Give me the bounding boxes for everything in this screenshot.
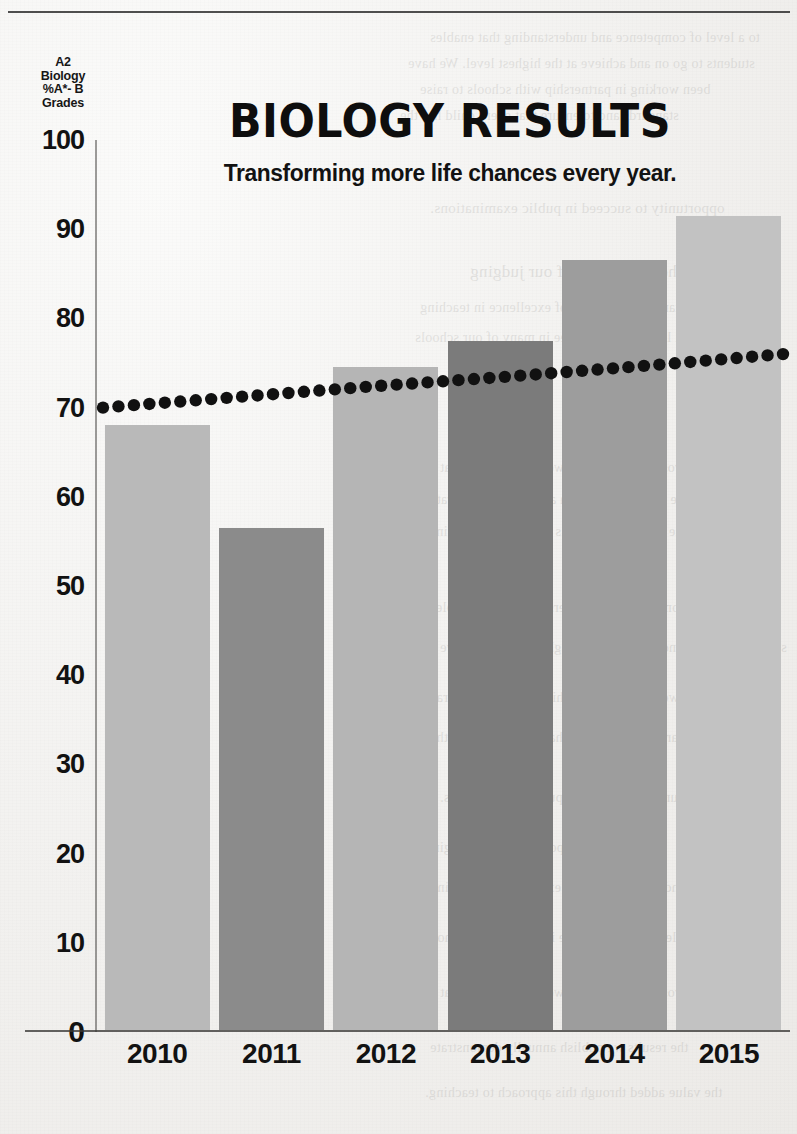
trend-dot xyxy=(746,351,758,363)
y-tick-label-100: 100 xyxy=(22,125,84,156)
top-horizontal-rule xyxy=(8,11,790,13)
y-axis-caption-line-3: %A*- B xyxy=(34,83,92,97)
x-tick-label-2010: 2010 xyxy=(100,1038,214,1070)
trend-dot xyxy=(530,368,542,380)
trend-dot xyxy=(344,382,356,394)
chart-page: to a level of competence and understandi… xyxy=(0,0,797,1134)
trend-line xyxy=(95,140,790,1032)
trend-dot xyxy=(390,378,402,390)
trend-dot xyxy=(143,398,155,410)
trend-dot xyxy=(298,386,310,398)
y-tick-label-30: 30 xyxy=(22,749,84,780)
trend-dot xyxy=(622,361,634,373)
trend-dot xyxy=(190,394,202,406)
trend-dot xyxy=(591,363,603,375)
y-tick-label-60: 60 xyxy=(22,481,84,512)
y-axis-caption-line-1: A2 xyxy=(34,56,92,70)
y-tick-label-20: 20 xyxy=(22,838,84,869)
y-tick-label-70: 70 xyxy=(22,392,84,423)
trend-dot xyxy=(375,380,387,392)
x-tick-label-2011: 2011 xyxy=(214,1038,328,1070)
trend-dot xyxy=(437,375,449,387)
trend-dot xyxy=(267,388,279,400)
x-tick-label-2014: 2014 xyxy=(557,1038,671,1070)
trend-dot xyxy=(251,389,263,401)
x-tick-label-2015: 2015 xyxy=(672,1038,786,1070)
plot-area xyxy=(95,140,790,1032)
trend-dot xyxy=(560,366,572,378)
trend-dot xyxy=(159,397,171,409)
trend-dot xyxy=(97,401,109,413)
trend-dot xyxy=(282,387,294,399)
trend-dot xyxy=(684,356,696,368)
trend-dot xyxy=(730,352,742,364)
trend-dot xyxy=(777,348,789,360)
x-tick-label-2013: 2013 xyxy=(443,1038,557,1070)
trend-dot xyxy=(421,376,433,388)
trend-dot xyxy=(499,371,511,383)
trend-dot xyxy=(329,383,341,395)
y-tick-label-80: 80 xyxy=(22,303,84,334)
y-axis-caption-line-4: Grades xyxy=(34,97,92,111)
trend-dot xyxy=(715,353,727,365)
bleed-through-line: students to go on and achieve at the hig… xyxy=(408,56,755,72)
trend-dot xyxy=(545,367,557,379)
trend-dot xyxy=(360,381,372,393)
trend-dot xyxy=(220,392,232,404)
trend-dot xyxy=(761,349,773,361)
trend-dot xyxy=(468,373,480,385)
trend-dot xyxy=(653,358,665,370)
x-axis-baseline xyxy=(25,1030,790,1032)
bleed-through-line: the value added through this approach to… xyxy=(425,1085,722,1101)
y-tick-label-40: 40 xyxy=(22,660,84,691)
trend-dot xyxy=(514,369,526,381)
trend-dot xyxy=(452,374,464,386)
y-tick-label-90: 90 xyxy=(22,214,84,245)
y-axis-caption-line-2: Biology xyxy=(34,70,92,84)
trend-dot xyxy=(638,360,650,372)
y-tick-label-50: 50 xyxy=(22,571,84,602)
trend-dot xyxy=(607,362,619,374)
trend-dot xyxy=(313,384,325,396)
x-axis-tick-labels: 201020112012201320142015 xyxy=(95,1038,795,1084)
trend-dot xyxy=(205,393,217,405)
trend-dot xyxy=(174,395,186,407)
trend-dot xyxy=(669,357,681,369)
y-axis-caption: A2 Biology %A*- B Grades xyxy=(34,56,92,110)
y-tick-label-10: 10 xyxy=(22,927,84,958)
trend-dot xyxy=(236,390,248,402)
trend-dot xyxy=(112,400,124,412)
trend-dot xyxy=(576,365,588,377)
trend-dot xyxy=(406,377,418,389)
trend-dot xyxy=(700,354,712,366)
y-tick-label-0: 0 xyxy=(22,1015,84,1049)
x-tick-label-2012: 2012 xyxy=(329,1038,443,1070)
trend-dot xyxy=(128,399,140,411)
trend-dot xyxy=(483,372,495,384)
bleed-through-line: to a level of competence and understandi… xyxy=(430,30,760,46)
